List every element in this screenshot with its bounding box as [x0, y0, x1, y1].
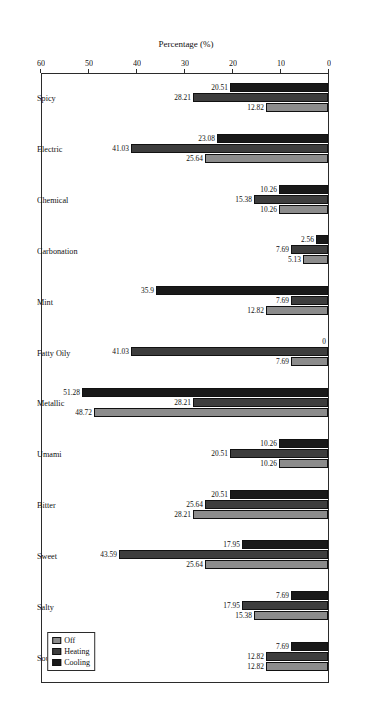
bar-value-label: 10.26 — [260, 205, 277, 214]
category-label: Bitter — [37, 501, 56, 510]
bar-row: 35.9 — [40, 286, 328, 295]
category-label: Carbonation — [37, 247, 77, 256]
legend-item-heating[interactable]: Heating — [52, 647, 90, 656]
bar-value-label: 25.64 — [186, 154, 203, 163]
category-label: Metallic — [37, 399, 64, 408]
bar-value-label: 7.69 — [276, 642, 289, 651]
bar-cooling — [291, 642, 328, 651]
bar-cooling — [230, 83, 328, 92]
bar-row: 10.26 — [40, 439, 328, 448]
bar-off — [279, 205, 328, 214]
legend-item-cooling[interactable]: Cooling — [52, 658, 90, 667]
bar-row: 20.51 — [40, 83, 328, 92]
axis-tick-mark — [184, 69, 185, 73]
axis-tick-label: 0 — [316, 59, 342, 68]
bar-row: 0 — [40, 337, 328, 346]
axis-tick-mark — [40, 69, 41, 73]
bar-group: 7.6941.030 — [42, 337, 328, 366]
axis-tick-label: 40 — [124, 59, 150, 68]
bar-heating — [291, 245, 328, 254]
bar-value-label: 0 — [322, 337, 326, 346]
bar-value-label: 43.59 — [100, 550, 117, 559]
bar-row: 10.26 — [40, 459, 328, 468]
bar-cooling — [242, 540, 328, 549]
bar-cooling — [279, 439, 328, 448]
axis-tick-label: 30 — [172, 59, 198, 68]
bar-row: 23.08 — [40, 134, 328, 143]
bar-off — [266, 662, 328, 671]
bar-value-label: 10.26 — [260, 439, 277, 448]
figure-rotation-wrapper: 12.8212.827.6915.3817.957.6925.6443.5917… — [0, 0, 372, 701]
bar-off — [266, 306, 328, 315]
legend-swatch-icon — [52, 637, 61, 644]
bar-heating — [230, 449, 328, 458]
bar-value-label: 17.95 — [223, 540, 240, 549]
bar-row: 15.38 — [40, 195, 328, 204]
bar-off — [303, 255, 328, 264]
bar-row: 28.21 — [40, 398, 328, 407]
bar-row: 12.82 — [40, 103, 328, 112]
bar-value-label: 7.69 — [276, 591, 289, 600]
bar-value-label: 12.82 — [248, 662, 265, 671]
bar-value-label: 12.82 — [248, 306, 265, 315]
bar-row: 17.95 — [40, 540, 328, 549]
bar-value-label: 20.51 — [211, 449, 228, 458]
bar-heating — [242, 601, 328, 610]
bar-value-label: 51.28 — [63, 388, 80, 397]
bar-cooling — [316, 235, 328, 244]
bar-cooling — [230, 490, 328, 499]
axis-tick-mark — [88, 69, 89, 73]
bar-value-label: 48.72 — [76, 408, 93, 417]
bar-row: 51.28 — [40, 388, 328, 397]
bar-cooling — [156, 286, 328, 295]
bar-heating — [254, 195, 328, 204]
bar-row: 10.26 — [40, 185, 328, 194]
bar-off — [291, 357, 328, 366]
bar-row: 7.69 — [40, 357, 328, 366]
bar-value-label: 28.21 — [174, 510, 191, 519]
bar-cooling — [217, 134, 328, 143]
axis-tick-mark — [280, 69, 281, 73]
axis-tick-mark — [232, 69, 233, 73]
legend-item-off[interactable]: Off — [52, 636, 90, 645]
bar-row: 20.51 — [40, 490, 328, 499]
bar-off — [279, 459, 328, 468]
legend-swatch-icon — [52, 659, 61, 666]
bar-row: 28.21 — [40, 510, 328, 519]
bar-group: 25.6441.0323.08 — [42, 134, 328, 163]
bar-off — [94, 408, 328, 417]
axis-tick-label: 20 — [220, 59, 246, 68]
bar-group: 48.7228.2151.28 — [42, 388, 328, 417]
bar-off — [266, 103, 328, 112]
bar-off — [205, 560, 328, 569]
legend-label: Heating — [64, 647, 89, 656]
category-label: Salty — [37, 603, 54, 612]
bar-row: 25.64 — [40, 500, 328, 509]
bar-heating — [131, 144, 328, 153]
bar-group: 12.8228.2120.51 — [42, 83, 328, 112]
plot-frame: 12.8212.827.6915.3817.957.6925.6443.5917… — [41, 73, 329, 683]
bar-row: 5.13 — [40, 255, 328, 264]
category-label: Fatty Oily — [37, 349, 70, 358]
bar-value-label: 12.82 — [248, 103, 265, 112]
bar-value-label: 7.69 — [276, 357, 289, 366]
bar-row: 25.64 — [40, 560, 328, 569]
bar-row: 2.56 — [40, 235, 328, 244]
bar-value-label: 7.69 — [276, 245, 289, 254]
bar-row: 10.26 — [40, 205, 328, 214]
bar-value-label: 25.64 — [186, 560, 203, 569]
bar-row: 12.82 — [40, 306, 328, 315]
bar-cooling — [82, 388, 328, 397]
bar-group: 25.6443.5917.95 — [42, 540, 328, 569]
bar-group: 12.827.6935.9 — [42, 286, 328, 315]
category-label: Sweet — [37, 552, 57, 561]
bar-heating — [131, 347, 328, 356]
bar-value-label: 10.26 — [260, 185, 277, 194]
bar-heating — [119, 550, 328, 559]
bar-row: 48.72 — [40, 408, 328, 417]
bar-heating — [266, 652, 328, 661]
bar-heating — [291, 296, 328, 305]
bar-value-label: 17.95 — [223, 601, 240, 610]
bar-value-label: 41.03 — [112, 347, 129, 356]
bar-group: 10.2615.3810.26 — [42, 185, 328, 214]
